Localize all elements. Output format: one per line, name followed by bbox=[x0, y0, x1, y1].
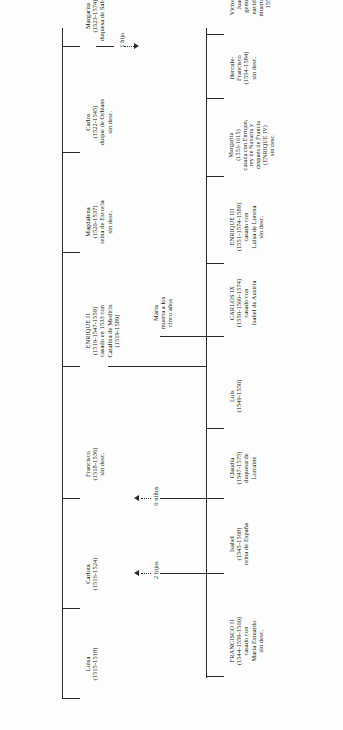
note-1-hijo-text: 1 hijo bbox=[118, 20, 125, 60]
note-6-ninos-text: 6 niños bbox=[152, 474, 159, 518]
node-enrique-ii-line-1: (1519-1547-1559) bbox=[91, 266, 98, 396]
note-6-ninos-arrow bbox=[134, 495, 139, 501]
note-2-hijos-text: 2 hijos bbox=[152, 548, 159, 592]
gen2-stub-isabel bbox=[206, 573, 224, 574]
node-carlos-line-2: duque de Orléans bbox=[98, 62, 105, 182]
node-francisco-ii-line-4: sin desc. bbox=[257, 576, 264, 706]
node-carlos-line-0: Carlos bbox=[84, 62, 91, 182]
note-2-hijos-dotted bbox=[141, 573, 151, 574]
node-carlos: Carlos (1522-1545) duque de Orléans sin … bbox=[84, 62, 113, 182]
node-margarita-saboya-line-0: Margarita bbox=[84, 0, 91, 76]
genealogy-chart: Luisa (1515-1518) Carlota (1516-1524) Fr… bbox=[0, 0, 343, 730]
gen1-stub-luisa bbox=[62, 698, 80, 699]
node-victoria-juana-line-5: 1556 bbox=[264, 0, 271, 62]
node-carlota-line-1: (1516-1524) bbox=[91, 514, 98, 634]
note-maria-line-2: cinco años bbox=[166, 268, 173, 358]
note-maria-line-1: muerta a los bbox=[159, 268, 166, 358]
node-margarita-navarra-line-6: sin desc. bbox=[269, 80, 276, 210]
node-carlos-line-1: (1522-1545) bbox=[91, 62, 98, 182]
node-victoria-juana-line-4: muertas en bbox=[257, 0, 264, 62]
gen2-stub-francisco-ii bbox=[206, 676, 224, 677]
gen1-spine bbox=[62, 28, 63, 698]
enrique-ii-to-gen2-link bbox=[108, 366, 206, 367]
gen2-stub-margarita-navarra bbox=[206, 176, 224, 177]
node-margarita-saboya-line-1: (1523-1574) bbox=[91, 0, 98, 76]
gen1-stub-enrique-ii bbox=[62, 366, 80, 367]
gen2-stub-victoria-juana bbox=[206, 34, 224, 35]
note-1-hijo-dotted bbox=[124, 46, 134, 47]
gen2-spine bbox=[206, 28, 207, 678]
node-francisco-line-1: (1518-1536) bbox=[91, 404, 98, 524]
note-maria-line-0: María bbox=[152, 268, 159, 358]
node-victoria-juana-line-3: nacidas y bbox=[250, 0, 257, 62]
node-victoria-juana-line-1: Juana bbox=[235, 0, 242, 62]
node-victoria-juana-line-0: Victoria y bbox=[228, 0, 235, 62]
note-1-hijo: 1 hijo bbox=[118, 20, 125, 60]
note-1-hijo-arrow bbox=[134, 43, 139, 49]
node-francisco-line-2: sin desc. bbox=[98, 404, 105, 524]
node-enrique-ii-line-3: Catalina de Medicis bbox=[106, 266, 113, 396]
gen2-stub-carlos-ix bbox=[206, 336, 224, 337]
note-6-ninos: 6 niños bbox=[152, 474, 159, 518]
gen1-stub-francisco bbox=[62, 498, 80, 499]
node-carlota: Carlota (1516-1524) bbox=[84, 514, 98, 634]
note-2-hijos: 2 hijos bbox=[152, 548, 159, 592]
node-carlota-line-0: Carlota bbox=[84, 514, 91, 634]
gen2-stub-luis bbox=[206, 428, 224, 429]
node-francisco: Francisco (1518-1536) sin desc. bbox=[84, 404, 106, 524]
note-6-ninos-dotted bbox=[141, 498, 151, 499]
gen2-stub-enrique-iii bbox=[206, 263, 224, 264]
gen1-stub-magdalena bbox=[62, 252, 80, 253]
node-claudia-line-2: duquesa de bbox=[242, 408, 249, 528]
note-maria: María muerta a los cinco años bbox=[152, 268, 174, 358]
gen2-stub-hercule-francisco bbox=[206, 98, 224, 99]
node-enrique-ii-line-4: (1519-1589) bbox=[113, 266, 120, 396]
gen1-stub-carlota bbox=[62, 608, 80, 609]
node-victoria-juana: Victoria y Juana gemelas nacidas y muert… bbox=[228, 0, 271, 62]
node-francisco-line-0: Francisco bbox=[84, 404, 91, 524]
note-2-hijos-arrow bbox=[134, 570, 139, 576]
node-francisco-ii-line-3: María Estuardo bbox=[250, 576, 257, 706]
node-victoria-juana-line-2: gemelas bbox=[242, 0, 249, 62]
gen1-stub-carlos bbox=[62, 152, 80, 153]
gen2-stub-claudia bbox=[206, 498, 224, 499]
gen1-stub-margarita-saboya bbox=[62, 46, 80, 47]
isabel-issue-line bbox=[160, 573, 206, 574]
node-carlos-line-3: sin desc. bbox=[106, 62, 113, 182]
node-margarita-saboya-line-2: duquesa de Saboya bbox=[98, 0, 105, 76]
node-margarita-saboya: Margarita (1523-1574) duquesa de Saboya bbox=[84, 0, 106, 76]
node-enrique-ii-line-2: casado en 1533 con bbox=[98, 266, 105, 396]
margarita-saboya-issue-line bbox=[96, 46, 114, 47]
claudia-issue-line bbox=[160, 498, 206, 499]
node-margarita-navarra-line-5: (ENRIQUE IV) bbox=[262, 80, 269, 210]
node-enrique-ii: ENRIQUE II (1519-1547-1559) casado en 15… bbox=[84, 266, 120, 396]
node-enrique-ii-line-0: ENRIQUE II bbox=[84, 266, 91, 396]
node-claudia-line-3: Lorraine bbox=[250, 408, 257, 528]
